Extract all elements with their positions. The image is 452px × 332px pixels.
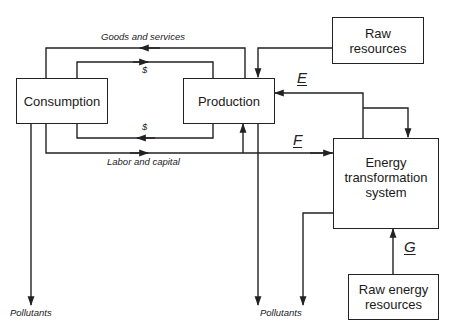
production-node: Production [183, 78, 275, 124]
energy-system-label-line3: system [344, 185, 427, 200]
variable-e: E [297, 69, 307, 86]
energy-to-production-line [275, 93, 363, 138]
consumption-label: Consumption [24, 94, 101, 109]
raw-resources-label-line2: resources [349, 41, 406, 56]
production-label: Production [198, 94, 260, 109]
energy-pollutants-line [303, 213, 333, 305]
raw-energy-label-line2: resources [359, 297, 428, 312]
raw-to-production-line [258, 48, 332, 77]
consumption-node: Consumption [16, 78, 108, 124]
variable-f: F [293, 131, 302, 148]
energy-feedback-line [363, 108, 408, 137]
pollutants-left-label: Pollutants [10, 307, 52, 318]
pollutants-right-label: Pollutants [260, 307, 302, 318]
raw-resources-label-line1: Raw [349, 26, 406, 41]
raw-energy-node: Raw energy resources [348, 274, 439, 320]
dollar-top-label: $ [142, 64, 147, 75]
raw-energy-label-line1: Raw energy [359, 282, 428, 297]
variable-g: G [404, 238, 416, 255]
dollar-bottom-label: $ [142, 121, 147, 132]
energy-system-label-line1: Energy [344, 155, 427, 170]
energy-system-node: Energy transformation system [333, 138, 439, 229]
goods-services-label: Goods and services [101, 31, 185, 42]
raw-resources-node: Raw resources [332, 17, 424, 64]
energy-system-label-line2: transformation [344, 170, 427, 185]
labor-capital-label: Labor and capital [107, 156, 180, 167]
